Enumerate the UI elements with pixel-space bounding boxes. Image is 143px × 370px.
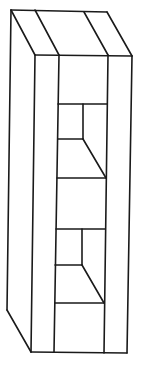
front-left-edge [31,55,35,352]
upper-shelf-diagonal [83,139,106,178]
top-face [11,10,132,56]
top-back-edge [11,10,107,12]
bookcase-diagram [0,0,143,370]
left-side-panel [7,10,31,352]
front-bottom-edge [31,352,127,353]
front-right-edge [127,56,132,353]
lower-shelf-diagonal [82,265,104,303]
front-inner-right-edge [104,55,108,353]
side-bottom-diagonal [7,310,31,352]
upper-shelf-compartment [57,104,107,178]
top-inner-right-diagonal [84,12,108,55]
front-frame [31,55,132,353]
top-inner-left-diagonal [35,10,59,55]
top-front-edge [35,55,132,56]
top-left-diagonal [11,10,35,55]
front-inner-left-edge [54,55,59,352]
side-back-edge [7,10,11,310]
top-right-diagonal [107,12,132,56]
lower-shelf-compartment [55,229,105,303]
